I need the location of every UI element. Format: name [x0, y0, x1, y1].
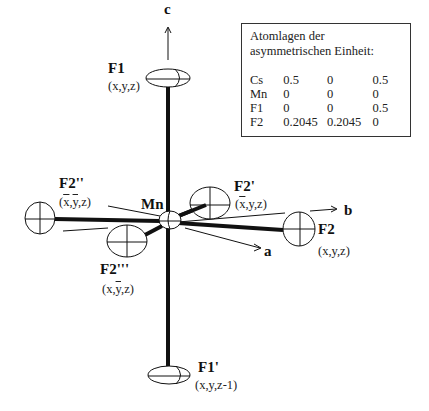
atom-f1p-ellipsoid — [148, 366, 190, 384]
positions-grid: Cs 0.5 0 0.5 Mn 0 0 0 F1 0 0 0.5 F2 0.20… — [250, 73, 402, 129]
atom-coord-f2ppp: (x,y,z) — [102, 283, 134, 296]
atom-label-mn: Mn — [141, 197, 164, 212]
cell-atom: Cs — [250, 73, 283, 87]
atom-f2-ellipsoid — [283, 212, 315, 246]
atom-label-f2pp: F2'' — [59, 176, 84, 191]
cell-z: 0.5 — [373, 73, 402, 87]
axis-label-b: b — [344, 203, 352, 218]
table-title-line1: Atomlagen der — [250, 29, 402, 44]
atom-label-f1p: F1' — [198, 360, 219, 375]
cell-x: 0.5 — [283, 73, 327, 87]
axis-label-a: a — [264, 244, 272, 259]
b-axis-arrow — [310, 209, 336, 211]
axis-label-c: c — [164, 2, 171, 17]
cell-z: 0 — [373, 115, 402, 129]
aux-line — [63, 228, 108, 231]
table-row: F1 0 0 0.5 — [250, 101, 402, 115]
atom-f2p-ellipsoid — [176, 187, 230, 219]
cell-y: 0 — [327, 73, 373, 87]
table-row: Mn 0 0 0 — [250, 87, 402, 101]
cell-z: 0.5 — [373, 101, 402, 115]
bond-mn-f2pp — [55, 219, 160, 221]
bond-mn-f2 — [178, 223, 283, 230]
atom-label-f2: F2 — [318, 222, 335, 237]
cell-x: 0 — [283, 87, 327, 101]
cell-y: 0.2045 — [327, 115, 373, 129]
table-row: F2 0.2045 0.2045 0 — [250, 115, 402, 129]
table-title-line2: asymmetrischen Einheit: — [250, 44, 402, 59]
cell-y: 0 — [327, 87, 373, 101]
cell-atom: Mn — [250, 87, 283, 101]
table-row: Cs 0.5 0 0.5 — [250, 73, 402, 87]
atom-positions-table: Atomlagen der asymmetrischen Einheit: Cs… — [241, 23, 411, 137]
cell-y: 0 — [327, 101, 373, 115]
atom-coord-f2p: (x,y,z) — [235, 198, 267, 211]
atom-coord-f2pp: (x,y,z) — [59, 196, 91, 209]
atom-label-f1: F1 — [108, 61, 125, 76]
atom-label-f2ppp: F2''' — [100, 262, 129, 277]
a-axis-arrow — [185, 228, 260, 248]
aux-line — [178, 213, 285, 222]
atom-f2pp-ellipsoid — [25, 202, 55, 234]
cell-x: 0.2045 — [283, 115, 327, 129]
cell-atom: F2 — [250, 115, 283, 129]
atom-coord-f1p: (x,y,z-1) — [195, 379, 237, 392]
atom-coord-f1: (x,y,z) — [108, 80, 140, 93]
atom-label-f2p: F2' — [234, 179, 255, 194]
atom-f2ppp-ellipsoid — [107, 225, 147, 257]
atom-coord-f2: (x,y,z) — [318, 245, 350, 258]
atom-f1-ellipsoid — [146, 69, 190, 87]
cell-atom: F1 — [250, 101, 283, 115]
atom-mn-ellipsoid — [159, 211, 181, 232]
cell-z: 0 — [373, 87, 402, 101]
cell-x: 0 — [283, 101, 327, 115]
